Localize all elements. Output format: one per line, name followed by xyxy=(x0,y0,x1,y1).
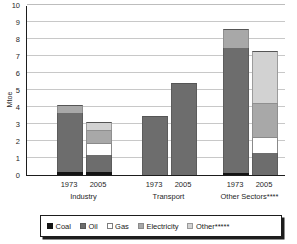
bar-segment-electricity xyxy=(223,29,249,49)
legend-item-oil[interactable]: Oil xyxy=(80,222,98,231)
x-axis-group-label: Other Sectors**** xyxy=(200,192,297,201)
y-tick-label: 0 xyxy=(0,172,20,180)
bar-segment-gas xyxy=(252,137,278,153)
bar-segment-coal xyxy=(86,172,112,175)
y-tick-label: 5 xyxy=(0,87,20,95)
bar-segment-coal xyxy=(223,173,249,175)
bar xyxy=(86,122,112,175)
stacked-bar-chart: Mtoe 012345678910 1973200519732005197320… xyxy=(0,0,296,244)
legend-label: Oil xyxy=(88,222,97,231)
gridline xyxy=(27,21,285,22)
gridline xyxy=(27,4,285,5)
legend-label: Electricity xyxy=(146,222,178,231)
bar xyxy=(57,105,83,175)
legend-swatch-oil-icon xyxy=(80,223,86,229)
bar-segment-oil xyxy=(57,113,83,172)
bar-segment-other xyxy=(86,122,112,130)
bar xyxy=(252,51,278,175)
bar-segment-other xyxy=(252,51,278,103)
bar-segment-coal xyxy=(57,172,83,175)
y-tick-label: 3 xyxy=(0,121,20,129)
bar xyxy=(223,29,249,175)
x-axis-labels: 197320051973200519732005IndustryTranspor… xyxy=(0,180,296,210)
bar-segment-oil xyxy=(171,83,197,175)
y-axis-tick-labels: 012345678910 xyxy=(0,6,24,176)
bar-segment-electricity xyxy=(57,105,83,113)
legend-label: Other***** xyxy=(196,222,229,231)
legend-swatch-electricity-icon xyxy=(138,223,144,229)
x-tick-label-year: 2005 xyxy=(247,180,281,189)
legend-label: Gas xyxy=(115,222,129,231)
legend-item-gas[interactable]: Gas xyxy=(107,222,129,231)
bar-segment-oil xyxy=(86,155,112,173)
legend-item-other[interactable]: Other***** xyxy=(187,222,229,231)
bar-segment-electricity xyxy=(252,103,278,137)
x-tick-label-year: 2005 xyxy=(81,180,115,189)
bar-segment-oil xyxy=(252,153,278,175)
legend: CoalOilGasElectricityOther***** xyxy=(40,215,282,237)
y-tick-label: 10 xyxy=(0,2,20,10)
y-tick-label: 6 xyxy=(0,70,20,78)
y-tick-label: 2 xyxy=(0,138,20,146)
bar xyxy=(171,83,197,175)
plot-area xyxy=(26,6,285,176)
legend-swatch-other-icon xyxy=(187,223,193,229)
bar xyxy=(142,116,168,176)
legend-item-coal[interactable]: Coal xyxy=(47,222,71,231)
x-tick-label-year: 2005 xyxy=(166,180,200,189)
y-tick-label: 1 xyxy=(0,155,20,163)
y-tick-label: 7 xyxy=(0,53,20,61)
legend-swatch-gas-icon xyxy=(107,223,113,229)
y-tick-label: 4 xyxy=(0,104,20,112)
bar-segment-gas xyxy=(86,143,112,155)
legend-item-electricity[interactable]: Electricity xyxy=(138,222,179,231)
legend-swatch-coal-icon xyxy=(47,223,53,229)
bar-segment-oil xyxy=(142,116,168,176)
y-tick-label: 8 xyxy=(0,36,20,44)
bar-segment-oil xyxy=(223,48,249,173)
legend-label: Coal xyxy=(56,222,71,231)
bar-segment-electricity xyxy=(86,130,112,143)
y-tick-label: 9 xyxy=(0,19,20,27)
